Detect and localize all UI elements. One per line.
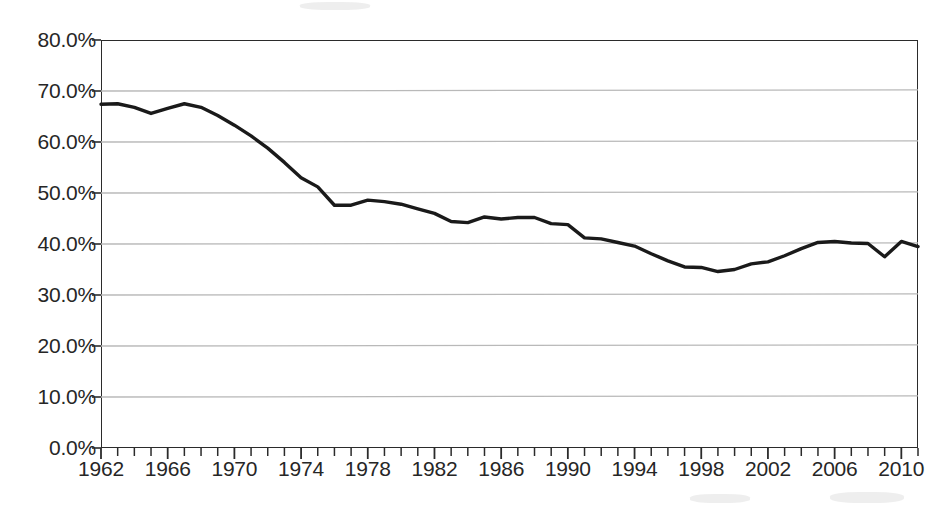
chart-page: 80.0%70.0%60.0%50.0%40.0%30.0%20.0%10.0%… bbox=[0, 0, 937, 508]
data-series-layer bbox=[0, 0, 937, 508]
data-line bbox=[101, 104, 918, 272]
